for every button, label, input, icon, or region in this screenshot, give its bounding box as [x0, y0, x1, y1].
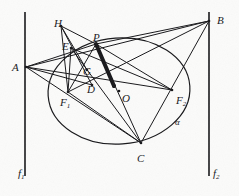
point-dot-P	[95, 43, 98, 46]
label-point-F2: F2	[176, 95, 186, 108]
segment-lines	[26, 21, 209, 143]
geometry-figure: ABCHPEGDF1F2Of1f2α	[0, 0, 239, 196]
point-dot-B	[208, 20, 211, 23]
point-dot-A	[25, 66, 28, 69]
label-point-G: G	[83, 66, 91, 77]
segment-C-F1	[68, 92, 141, 143]
segment-P-B	[96, 21, 209, 44]
label-point-C: C	[137, 153, 144, 164]
point-dot-E	[70, 47, 73, 50]
point-dot-O	[118, 90, 121, 93]
label-f2-subscript: 2	[216, 173, 220, 181]
label-f2: f2	[213, 168, 220, 181]
label-point-F2-subscript: 2	[183, 100, 187, 108]
label-point-E: E	[62, 41, 69, 52]
point-dot-F2	[171, 89, 174, 92]
label-point-B: B	[217, 15, 224, 26]
label-point-H: H	[54, 18, 62, 29]
point-dot-C	[140, 142, 143, 145]
label-point-F1-subscript: 1	[67, 102, 71, 110]
emphasis-endpoint-dot	[112, 84, 116, 88]
label-f1-subscript: 1	[21, 173, 25, 181]
label-f1: f1	[18, 168, 25, 181]
label-point-F1: F1	[60, 97, 70, 110]
label-point-O: O	[122, 93, 130, 104]
label-point-P: P	[93, 32, 100, 43]
figure-canvas	[0, 0, 239, 196]
label-point-A: A	[12, 62, 19, 73]
point-dot-F1	[67, 91, 70, 94]
label-point-D: D	[87, 84, 95, 95]
label-conic-alpha: α	[175, 118, 180, 127]
segment-A-P	[26, 44, 96, 67]
